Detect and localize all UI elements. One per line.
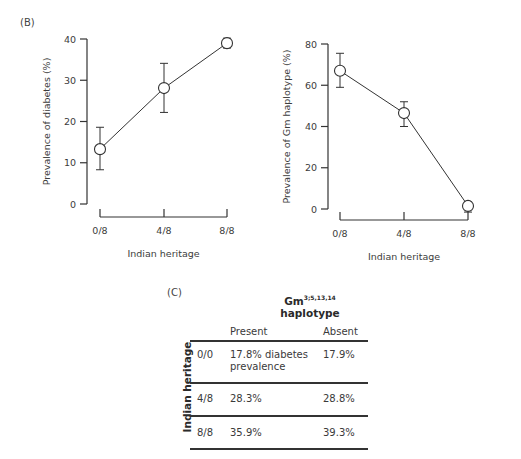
cell-present-4-8: 28.3% (230, 393, 262, 405)
y-tick-label: 20 (305, 162, 317, 173)
cell-present-0-0-line1: 17.8% diabetes (230, 349, 308, 361)
row-label-8-8: 8/8 (197, 427, 213, 439)
table-row-rule-1 (190, 382, 368, 384)
cell-absent-0-0: 17.9% (323, 349, 355, 361)
table-group-title-superscript: 3;5,13,14 (304, 294, 336, 301)
row-group-title: Indian heritage (181, 337, 193, 437)
table-group-title: Gm3;5,13,14 (270, 294, 350, 307)
cell-present-0-0: 17.8% diabetes prevalence (230, 349, 308, 373)
data-point-marker (399, 108, 410, 119)
table-group-subtitle: haplotype (270, 307, 350, 319)
x-tick-label: 4/8 (396, 228, 411, 239)
y-axis-label: Prevalence of Gm haplotype (%) (281, 50, 292, 204)
column-header-present: Present (230, 326, 268, 338)
panel-c-label: (C) (167, 287, 182, 298)
y-tick-label: 80 (305, 39, 317, 50)
table-row-rule-2 (190, 415, 368, 417)
data-point-marker (463, 200, 474, 211)
column-header-absent: Absent (323, 326, 358, 338)
data-line (340, 71, 468, 206)
cell-absent-4-8: 28.8% (323, 393, 355, 405)
x-tick-label: 8/8 (460, 228, 475, 239)
x-tick-label: 0/8 (332, 228, 347, 239)
y-tick-label: 0 (311, 204, 317, 215)
y-tick-label: 60 (305, 80, 317, 91)
cell-present-0-0-line2: prevalence (230, 361, 308, 373)
table-header-rule (190, 340, 368, 342)
data-point-marker (335, 65, 346, 76)
cell-absent-8-8: 39.3% (323, 427, 355, 439)
y-tick-label: 40 (305, 121, 317, 132)
row-label-0-0: 0/0 (197, 349, 213, 361)
gm-haplotype-chart: 020406080Prevalence of Gm haplotype (%)0… (0, 0, 521, 270)
cell-present-8-8: 35.9% (230, 427, 262, 439)
row-label-4-8: 4/8 (197, 393, 213, 405)
x-axis-label: Indian heritage (368, 251, 440, 262)
table-group-title-main: Gm (284, 295, 304, 307)
table-bottom-rule (190, 448, 368, 450)
